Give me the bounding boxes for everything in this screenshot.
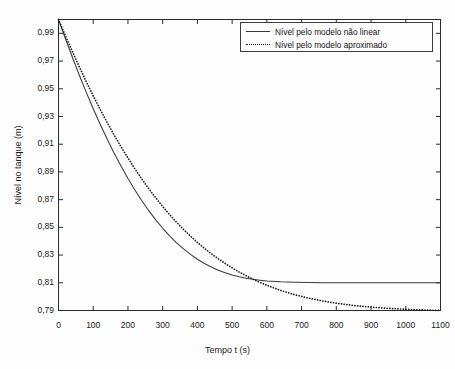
legend-label-approximate: Nível pelo modelo aproximado xyxy=(275,40,387,50)
plot-canvas xyxy=(0,0,455,369)
x-tick-label: 1100 xyxy=(421,321,455,330)
y-axis-title-text: Nível no tanque (m) xyxy=(13,125,23,204)
y-tick-label: 0,89 xyxy=(24,167,54,176)
tick-marks xyxy=(59,20,441,311)
y-tick-label: 0,99 xyxy=(24,28,54,37)
legend-line-sample-dotted-icon xyxy=(245,40,271,50)
chart-legend: Nível pelo modelo não linear Nível pelo … xyxy=(240,22,433,52)
y-tick-label: 0,85 xyxy=(24,222,54,231)
y-tick-label: 0,87 xyxy=(24,195,54,204)
y-axis-title: Nível no tanque (m) xyxy=(13,95,23,235)
y-tick-label: 0,93 xyxy=(24,112,54,121)
legend-line-sample-solid-icon xyxy=(245,27,271,37)
y-tick-label: 0,91 xyxy=(24,139,54,148)
x-axis-title: Tempo t (s) xyxy=(0,345,455,355)
plot-frame xyxy=(59,20,441,311)
x-axis-title-text: Tempo t (s) xyxy=(205,345,250,355)
y-tick-label: 0,95 xyxy=(24,84,54,93)
series-line-nonlinear xyxy=(59,20,441,283)
legend-entry-nonlinear: Nível pelo modelo não linear xyxy=(245,25,428,38)
y-tick-label: 0,97 xyxy=(24,56,54,65)
series-line-approximate xyxy=(59,20,441,311)
chart-figure: 0,790,810,830,850,870,890,910,930,950,97… xyxy=(0,0,455,369)
y-tick-label: 0,79 xyxy=(24,306,54,315)
data-curves xyxy=(59,20,441,311)
legend-label-nonlinear: Nível pelo modelo não linear xyxy=(275,27,380,37)
x-axis-tick-labels: 010020030040050060070080090010001100 xyxy=(0,321,455,335)
y-axis-tick-labels: 0,790,810,830,850,870,890,910,930,950,97… xyxy=(22,0,54,369)
legend-entry-approximate: Nível pelo modelo aproximado xyxy=(245,38,428,51)
y-tick-label: 0,83 xyxy=(24,250,54,259)
y-tick-label: 0,81 xyxy=(24,278,54,287)
